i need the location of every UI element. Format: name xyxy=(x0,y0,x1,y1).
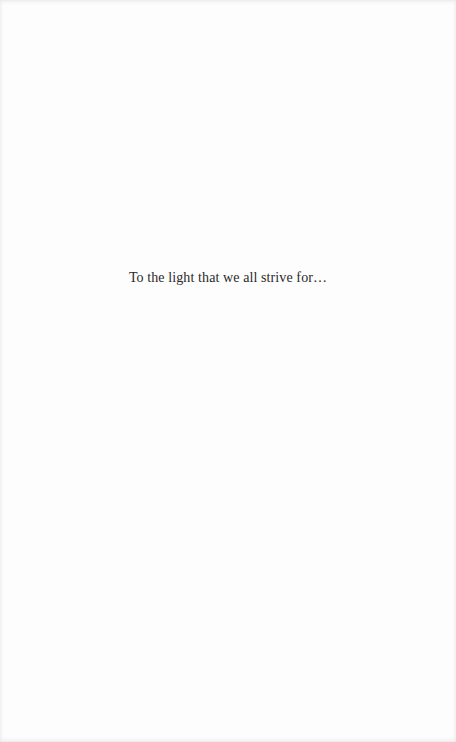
book-page: To the light that we all strive for… xyxy=(0,0,456,742)
dedication-text: To the light that we all strive for… xyxy=(0,270,456,286)
